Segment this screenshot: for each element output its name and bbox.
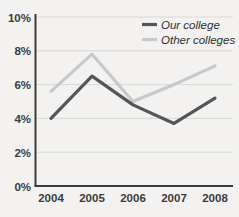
line-chart: 10% 8% 6% 4% 2% 0% 2004 2005 2006 2007 2…: [0, 0, 239, 217]
x-tick-label-2004: 2004: [38, 192, 64, 204]
legend-label-our-college: Our college: [161, 19, 220, 31]
x-tick-label-2007: 2007: [161, 192, 187, 204]
y-tick-label-6: 6%: [14, 79, 31, 91]
y-tick-label-0: 0%: [14, 181, 31, 193]
y-tick-label-2: 2%: [14, 147, 31, 159]
y-tick-label-10: 10%: [8, 12, 31, 24]
y-tick-label-4: 4%: [14, 113, 31, 125]
chart-canvas: 10% 8% 6% 4% 2% 0% 2004 2005 2006 2007 2…: [0, 0, 239, 217]
y-tick-label-8: 8%: [14, 45, 31, 57]
x-tick-label-2008: 2008: [202, 192, 228, 204]
x-tick-label-2005: 2005: [79, 192, 105, 204]
legend-label-other-colleges: Other colleges: [161, 34, 235, 46]
x-tick-label-2006: 2006: [120, 192, 146, 204]
